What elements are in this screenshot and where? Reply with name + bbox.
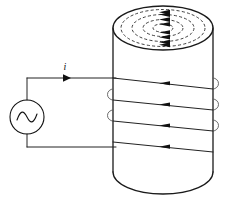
coil-arrow-3 bbox=[159, 124, 170, 128]
field-arrow-3-top bbox=[159, 17, 170, 22]
ac-source-sine-symbol bbox=[17, 112, 37, 122]
coil-front-loop-2 bbox=[108, 110, 113, 121]
coil-back-loop-2 bbox=[213, 99, 219, 110]
cylinder-bottom-arc bbox=[113, 172, 213, 194]
circuit-diagram-svg: i bbox=[0, 0, 226, 200]
current-direction-arrow bbox=[63, 74, 71, 82]
current-label: i bbox=[64, 61, 67, 72]
coil-arrow-4 bbox=[159, 145, 170, 149]
field-arrow-3-bottom bbox=[159, 35, 170, 40]
coil-back-loop-1 bbox=[213, 78, 218, 89]
coil-winding bbox=[108, 78, 219, 152]
coil-back-loop-3 bbox=[213, 120, 219, 131]
field-line-3 bbox=[143, 20, 183, 37]
ac-voltage-source bbox=[10, 100, 44, 134]
coil-arrow-1 bbox=[159, 81, 170, 85]
solenoid-cylinder bbox=[113, 6, 213, 194]
coil-arrow-2 bbox=[159, 102, 170, 106]
field-arrow-4-bottom bbox=[159, 30, 170, 34]
magnetic-field-lines bbox=[121, 10, 205, 48]
coil-front-loop-1 bbox=[108, 89, 113, 100]
solenoid-ac-circuit-figure: i bbox=[0, 0, 226, 200]
external-circuit bbox=[27, 74, 116, 147]
field-arrow-4-top bbox=[159, 22, 170, 26]
